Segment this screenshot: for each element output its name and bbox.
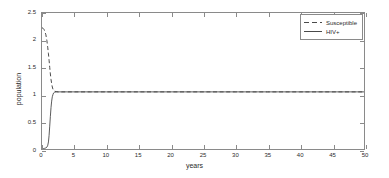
legend-item-hiv-positive: HIV+ — [304, 27, 357, 36]
legend-box: Susceptible HIV+ — [300, 14, 363, 40]
legend-item-susceptible: Susceptible — [304, 18, 357, 27]
x-tick-mark — [107, 13, 108, 17]
x-tick-label: 35 — [264, 152, 271, 159]
y-tick-mark — [360, 96, 364, 97]
x-tick-mark — [269, 13, 270, 17]
y-tick-mark — [360, 123, 364, 124]
x-tick-mark — [301, 145, 302, 149]
x-tick-label: 30 — [232, 152, 239, 159]
y-tick-mark — [42, 13, 46, 14]
legend-swatch-dashed-icon — [304, 22, 322, 23]
x-tick-mark — [139, 145, 140, 149]
series-line-hiv-positive — [42, 92, 364, 149]
x-tick-mark — [236, 13, 237, 17]
x-tick-mark — [204, 13, 205, 17]
figure-canvas: Susceptible HIV+ 05101520253035404550 00… — [0, 0, 389, 178]
y-tick-mark — [42, 96, 46, 97]
x-tick-label: 15 — [135, 152, 142, 159]
legend-label: Susceptible — [326, 19, 357, 27]
y-tick-mark — [360, 41, 364, 42]
x-tick-label: 45 — [329, 152, 336, 159]
x-tick-label: 10 — [102, 152, 109, 159]
x-tick-mark — [107, 145, 108, 149]
x-tick-mark — [269, 145, 270, 149]
x-tick-label: 0 — [39, 152, 42, 159]
y-tick-mark — [360, 68, 364, 69]
legend-swatch-solid-icon — [304, 31, 322, 32]
x-tick-label: 5 — [72, 152, 75, 159]
plot-area: Susceptible HIV+ — [41, 12, 365, 150]
y-tick-mark — [42, 41, 46, 42]
x-tick-mark — [334, 145, 335, 149]
x-tick-mark — [366, 13, 367, 17]
x-tick-label: 40 — [297, 152, 304, 159]
x-tick-mark — [204, 145, 205, 149]
y-tick-mark — [42, 123, 46, 124]
x-tick-mark — [172, 13, 173, 17]
x-tick-mark — [236, 145, 237, 149]
x-tick-label: 20 — [167, 152, 174, 159]
x-tick-mark — [366, 145, 367, 149]
y-axis-title: population — [15, 73, 22, 105]
x-tick-mark — [74, 13, 75, 17]
x-tick-mark — [74, 145, 75, 149]
x-tick-mark — [42, 145, 43, 149]
y-tick-mark — [42, 68, 46, 69]
x-tick-mark — [139, 13, 140, 17]
x-tick-mark — [172, 145, 173, 149]
legend-label: HIV+ — [326, 28, 340, 36]
x-tick-label: 50 — [362, 152, 369, 159]
x-axis-title: years — [0, 162, 389, 169]
x-tick-label: 25 — [200, 152, 207, 159]
